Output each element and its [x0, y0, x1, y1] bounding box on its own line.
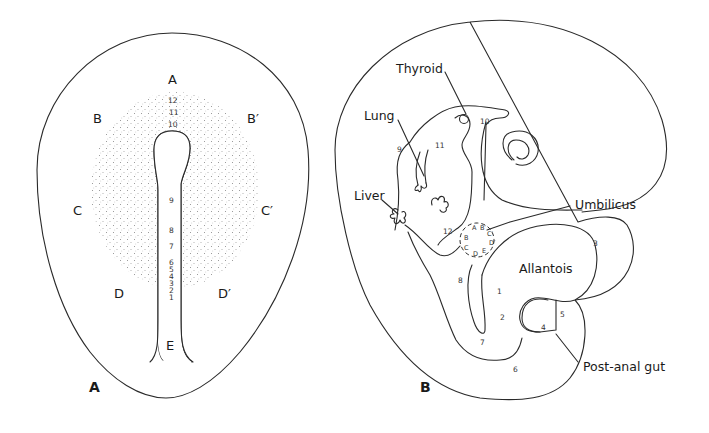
region-label-b: B — [93, 111, 102, 126]
umbilicus-leader-line — [487, 206, 570, 230]
level-b-6: 6 — [513, 365, 518, 374]
optic-spiral — [503, 131, 538, 165]
level-b-4: 4 — [541, 323, 546, 332]
level-b-1: 1 — [497, 287, 502, 296]
level-10: 10 — [168, 120, 178, 129]
level-1: 1 — [169, 293, 174, 302]
level-b-9: 9 — [397, 145, 402, 154]
hindgut — [468, 265, 485, 333]
panel-a-label: A — [89, 379, 100, 395]
panel-b-sagittal-embryo: A B′ C′ D′ E D C B Thyroid Lung Liver Um… — [335, 20, 667, 399]
pharynx-outline — [395, 106, 509, 230]
region-label-b-prime: B′ — [247, 111, 259, 126]
level-b-12: 12 — [443, 227, 453, 236]
region-label-c: C — [73, 203, 82, 218]
label-lung: Lung — [364, 108, 395, 123]
ring-letter-a: A — [472, 224, 477, 232]
ring-letter-d: D — [473, 250, 478, 258]
level-b-2: 2 — [500, 313, 505, 322]
post-anal-gut-leader-line — [556, 334, 578, 362]
lung-buds — [415, 183, 427, 192]
pancreas-bud — [432, 196, 449, 212]
ring-letter-b-prime: B′ — [480, 224, 486, 232]
panel-a-flat-embryo: A B B′ C C′ D D′ E 12 11 10 9 8 7 6 5 4 … — [37, 33, 309, 398]
ring-letter-c-prime: C′ — [487, 230, 494, 238]
level-b-11: 11 — [435, 141, 445, 150]
ring-letter-b: B — [464, 234, 468, 242]
level-b-3: 3 — [593, 239, 598, 248]
level-8: 8 — [169, 226, 174, 235]
region-label-d-prime: D′ — [218, 286, 231, 301]
embryo-diagram: A B B′ C C′ D D′ E 12 11 10 9 8 7 6 5 4 … — [0, 0, 709, 433]
label-allantois: Allantois — [519, 261, 573, 276]
trachea — [416, 150, 428, 185]
region-label-a: A — [168, 72, 177, 87]
level-9: 9 — [169, 196, 174, 205]
label-thyroid: Thyroid — [395, 61, 443, 76]
ring-letter-d-prime: D′ — [489, 239, 496, 247]
ring-letter-e: E — [482, 247, 486, 255]
level-12: 12 — [168, 96, 178, 105]
label-umbilicus: Umbilicus — [575, 197, 636, 212]
panel-b-label: B — [420, 379, 431, 395]
post-anal-gut-loop — [522, 299, 556, 332]
level-b-10: 10 — [480, 117, 490, 126]
level-b-7: 7 — [480, 338, 485, 347]
region-label-e: E — [166, 338, 174, 353]
level-7: 7 — [169, 242, 174, 251]
region-label-d: D — [114, 286, 124, 301]
level-11: 11 — [169, 108, 179, 117]
region-label-c-prime: C′ — [261, 203, 273, 218]
level-b-5: 5 — [560, 310, 565, 319]
label-liver: Liver — [354, 188, 386, 203]
level-b-8: 8 — [458, 276, 463, 285]
ring-letter-c: C — [464, 244, 469, 252]
thyroid-leader-line — [445, 72, 466, 114]
pharynx-inner — [438, 115, 472, 245]
label-post-anal-gut: Post-anal gut — [583, 359, 665, 374]
